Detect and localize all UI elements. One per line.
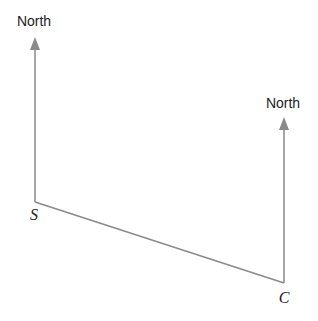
s-to-c-line [35, 202, 284, 283]
point-c-label: C [279, 289, 290, 306]
left-north-label: North [17, 13, 51, 29]
arrowhead-icon [30, 37, 40, 50]
bearing-diagram: North North S C [0, 0, 318, 321]
point-s-label: S [30, 206, 38, 223]
arrowhead-icon [279, 117, 289, 130]
right-north-arrow [279, 117, 289, 283]
right-north-label: North [266, 95, 300, 111]
left-north-arrow [30, 37, 40, 202]
